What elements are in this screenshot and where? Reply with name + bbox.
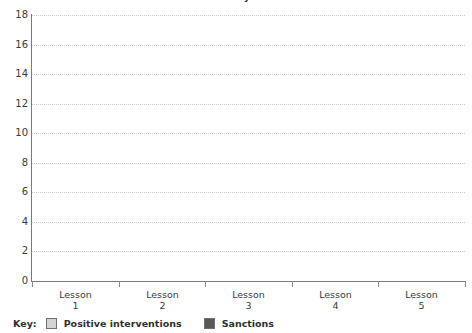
- gridline: [32, 45, 465, 46]
- x-axis-category-5: Lesson5: [378, 289, 465, 311]
- x-category-line2: 2: [119, 300, 206, 311]
- x-category-line1: Lesson: [205, 289, 292, 300]
- y-tick-label: 16: [4, 40, 28, 50]
- gridline: [32, 104, 465, 105]
- x-category-line1: Lesson: [292, 289, 379, 300]
- x-axis-category-2: Lesson2: [119, 289, 206, 311]
- legend-label-positive-interventions: Positive interventions: [64, 318, 182, 329]
- legend-title: Key:: [13, 318, 37, 329]
- x-axis-category-3: Lesson3: [205, 289, 292, 311]
- x-axis-category-4: Lesson4: [292, 289, 379, 311]
- x-category-line2: 1: [32, 300, 119, 311]
- y-tick-label: 10: [4, 128, 28, 138]
- x-axis-category-1: Lesson1: [32, 289, 119, 311]
- gridline: [32, 74, 465, 75]
- y-tick-label: 12: [4, 99, 28, 109]
- x-axis-line: [31, 281, 465, 282]
- x-category-line2: 3: [205, 300, 292, 311]
- x-category-line2: 5: [378, 300, 465, 311]
- y-tick-label: 2: [4, 246, 28, 256]
- legend-swatch-sanctions: [204, 318, 215, 329]
- gridline: [32, 251, 465, 252]
- bar-chart: Positive interventions and sanctions by …: [0, 0, 472, 333]
- x-axis-tick: [32, 281, 33, 287]
- y-tick-label: 18: [4, 10, 28, 20]
- legend-item-sanctions[interactable]: Sanctions: [204, 318, 274, 329]
- x-category-line2: 4: [292, 300, 379, 311]
- x-category-line1: Lesson: [378, 289, 465, 300]
- y-tick-label: 4: [4, 217, 28, 227]
- x-axis-tick: [465, 281, 466, 287]
- legend: Key: Positive interventions Sanctions: [13, 318, 296, 329]
- x-axis-tick: [292, 281, 293, 287]
- chart-title: Positive interventions and sanctions by …: [34, 0, 302, 2]
- legend-swatch-positive-interventions: [46, 318, 57, 329]
- x-category-line1: Lesson: [119, 289, 206, 300]
- x-category-line1: Lesson: [32, 289, 119, 300]
- y-tick-label: 0: [4, 276, 28, 286]
- legend-label-sanctions: Sanctions: [222, 318, 274, 329]
- x-axis-tick: [378, 281, 379, 287]
- plot-area: [32, 15, 465, 281]
- gridline: [32, 222, 465, 223]
- gridline: [32, 15, 465, 16]
- y-tick-label: 6: [4, 187, 28, 197]
- gridline: [32, 163, 465, 164]
- gridline: [32, 192, 465, 193]
- x-axis-tick: [119, 281, 120, 287]
- y-tick-label: 8: [4, 158, 28, 168]
- legend-item-positive-interventions[interactable]: Positive interventions: [46, 318, 182, 329]
- x-axis-tick: [205, 281, 206, 287]
- gridline: [32, 133, 465, 134]
- y-tick-label: 14: [4, 69, 28, 79]
